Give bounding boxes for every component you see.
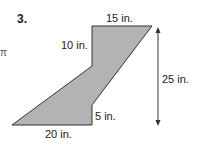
label-left-upper-height: 10 in. [61, 40, 88, 51]
height-dimension-arrow [156, 27, 161, 126]
label-top-width: 15 in. [106, 13, 133, 24]
label-total-height: 25 in. [162, 74, 189, 85]
label-right-lower-height: 5 in. [95, 111, 116, 122]
label-bottom-width: 20 in. [45, 129, 72, 140]
